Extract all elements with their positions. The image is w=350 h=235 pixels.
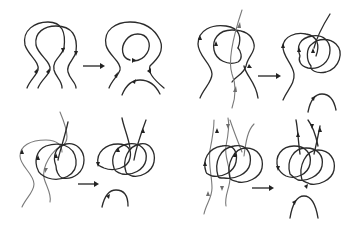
- arrow-up-icon: [46, 68, 50, 74]
- panel-top-left-after: [106, 22, 164, 95]
- arrow-right-icon: [276, 73, 281, 79]
- panel-top-right-after: [281, 14, 340, 112]
- arrow-right-icon: [269, 185, 274, 191]
- arrow-up-icon: [206, 191, 210, 196]
- arrow-right-icon: [94, 181, 99, 187]
- arrow-left-icon: [304, 184, 308, 189]
- arrow-down-icon: [226, 124, 230, 129]
- diagram-svg: [0, 0, 350, 235]
- arrow-up-icon: [114, 72, 118, 78]
- panel-bottom-left-before: [20, 112, 84, 207]
- panel-bottom-right-after: [276, 120, 334, 218]
- arrow-up-icon: [296, 132, 300, 137]
- arrow-up-icon: [281, 43, 285, 48]
- arrow-up-icon: [311, 48, 315, 53]
- panel-bottom-left-after: [96, 118, 154, 207]
- arrow-down-icon: [44, 168, 48, 173]
- arrow-up-icon: [318, 127, 322, 132]
- arrow-down-icon: [247, 64, 252, 68]
- panel-top-right-before: [198, 10, 258, 108]
- panel-bottom-right-before: [203, 118, 262, 214]
- arrow-down-icon: [220, 186, 224, 191]
- arrow-up-icon: [297, 47, 301, 52]
- arrow-right-icon: [100, 63, 105, 69]
- panel-top-left-before: [25, 22, 78, 88]
- arrow-up-icon: [215, 128, 219, 133]
- arrow-up-icon: [203, 161, 207, 166]
- arrow-up-icon: [34, 68, 38, 74]
- reconnection-diagram: [0, 0, 350, 235]
